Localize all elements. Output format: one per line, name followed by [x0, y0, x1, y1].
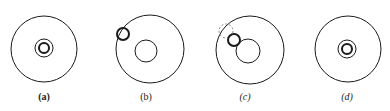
- panel-label-b: (b): [140, 91, 152, 102]
- small-thick-circle: [117, 28, 129, 40]
- panel-c: [216, 16, 284, 84]
- outer-circle: [116, 15, 184, 83]
- inner-ring: [338, 40, 356, 58]
- panel-label-d: (d): [341, 91, 353, 102]
- panel-b: [116, 15, 184, 83]
- inner-ring: [35, 39, 53, 57]
- panel-d: [315, 16, 381, 82]
- panel-label-c: (c): [239, 91, 250, 102]
- panel-a: [11, 16, 77, 82]
- inner-thick-circle: [39, 43, 49, 53]
- outer-circle: [11, 16, 77, 82]
- large-inner-circle: [135, 40, 157, 62]
- inner-thick-circle: [342, 44, 352, 54]
- diagram-canvas: [0, 0, 390, 111]
- outer-circle: [315, 16, 381, 82]
- panel-label-a: (a): [38, 91, 50, 102]
- outer-circle: [216, 16, 284, 84]
- small-thick-circle: [228, 34, 240, 46]
